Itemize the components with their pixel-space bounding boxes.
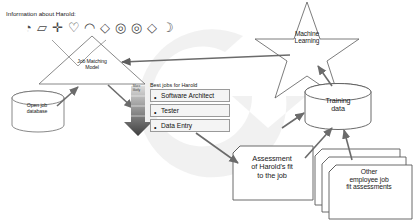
bullet-icon: • [154, 124, 158, 128]
model-label-line-2: Model [62, 65, 122, 71]
diamond-icon: ◇ [100, 20, 110, 35]
bullet-icon: • [154, 94, 158, 98]
pie-slice-icon: ◔ [24, 20, 32, 35]
information-about-harold-label: Information about Harold: [6, 10, 76, 17]
db-label-line-2: database [12, 109, 62, 115]
job-result-label: Data Entry [161, 122, 192, 129]
ml-label-line-2: Learning [272, 37, 342, 44]
machine-learning-label: Machine Learning [272, 30, 342, 45]
job-result-label: Software Architect [161, 92, 214, 99]
crescent-icon: ☽ [162, 20, 174, 35]
bullet-icon: • [154, 109, 158, 113]
parallelogram-icon: ▱ [37, 20, 47, 35]
job-result-item[interactable]: • Tester [150, 104, 230, 117]
heart-icon: ♡ [68, 20, 80, 35]
cross-icon: ✛ [52, 20, 63, 35]
harold-attribute-icons: ◔ ▱ ✛ ♡ ◠ ◇ ◎ ◎ ◇ ☽ [24, 20, 174, 35]
diagram-canvas: Information about Harold: ◔ ▱ ✛ ♡ ◠ ◇ ◎ … [0, 0, 415, 223]
diamond-icon-2: ◇ [147, 20, 157, 35]
ml-label-line-1: Machine [272, 30, 342, 37]
job-matching-model-label: Job Matching Model [62, 59, 122, 71]
target-icon-2: ◎ [131, 20, 142, 35]
open-job-database-label: Open job database [12, 103, 62, 115]
other-assessments-label: Other employee job fit assessments [332, 168, 406, 191]
other-assessments-line-2: employee job [332, 176, 406, 184]
training-label-line-2: data [311, 105, 365, 113]
target-icon: ◎ [115, 20, 126, 35]
other-assessments-line-1: Other [332, 168, 406, 176]
job-result-item[interactable]: • Data Entry [150, 119, 230, 132]
best-jobs-header: Best jobs for Harold [150, 82, 197, 88]
other-assessments-line-3: fit assessments [332, 183, 406, 191]
ranking-hint-line-2: likely [128, 89, 145, 93]
job-result-item[interactable]: • Software Architect [150, 89, 230, 102]
arrow-ml-to-model [122, 55, 290, 62]
droplet-icon: ◠ [84, 20, 95, 35]
assessment-label-line-3: to the job [236, 172, 308, 180]
training-data-label: Training data [311, 97, 365, 113]
ranking-likelihood-label: More likely [128, 85, 145, 92]
assessment-label: Assessment of Harold's fit to the job [236, 155, 308, 180]
job-result-label: Tester [161, 107, 179, 114]
